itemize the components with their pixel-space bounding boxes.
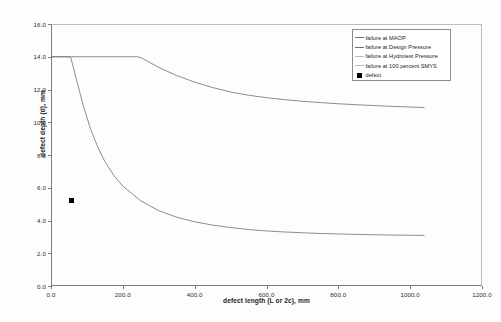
legend-item-label: failure at Hydrotest Pressure	[364, 53, 438, 59]
x-tick-mark	[51, 286, 52, 289]
x-tick-mark	[410, 286, 411, 289]
legend-line-marker-icon	[355, 43, 364, 52]
legend-item-label: defect	[364, 72, 381, 78]
y-tick-mark	[48, 57, 51, 58]
x-tick-mark	[338, 286, 339, 289]
defect-point-marker	[69, 198, 74, 203]
line-icon	[355, 47, 364, 48]
x-tick-mark	[482, 286, 483, 289]
legend-line-marker-icon	[355, 61, 364, 70]
chart-screenshot: 0.02.04.06.08.010.012.014.016.0 0.0200.0…	[0, 0, 501, 322]
y-tick-mark	[48, 24, 51, 25]
legend-item: failure at 100 percent SMYS	[355, 61, 450, 70]
x-tick-mark	[267, 286, 268, 289]
y-tick-mark	[48, 90, 51, 91]
y-tick-label: 0.0	[18, 283, 46, 290]
legend-line-marker-icon	[355, 52, 364, 61]
y-tick-mark	[48, 221, 51, 222]
legend-item-label: failure at MAOP	[364, 35, 406, 41]
y-tick-label: 6.0	[18, 184, 46, 191]
legend-item-label: failure at Design Pressure	[364, 44, 431, 50]
series-line-1	[51, 57, 425, 236]
legend-item: failure at Design Pressure	[355, 42, 450, 51]
x-tick-mark	[195, 286, 196, 289]
line-icon	[355, 37, 364, 38]
legend-item: failure at Hydrotest Pressure	[355, 52, 450, 61]
x-axis-title: defect length (L or 2c), mm	[51, 297, 482, 304]
legend-line-marker-icon	[355, 33, 364, 42]
y-tick-label: 14.0	[18, 53, 46, 60]
y-tick-mark	[48, 253, 51, 254]
y-tick-label: 2.0	[18, 250, 46, 257]
y-axis-title: defect depth (d), mm	[39, 64, 46, 184]
line-icon	[355, 56, 364, 57]
y-tick-mark	[48, 122, 51, 123]
legend-item: defect	[355, 71, 450, 80]
square-icon	[357, 73, 362, 78]
y-tick-label: 4.0	[18, 217, 46, 224]
legend-square-marker-icon	[355, 71, 364, 80]
legend-item-label: failure at 100 percent SMYS	[364, 63, 437, 69]
chart-legend: failure at MAOPfailure at Design Pressur…	[352, 29, 451, 81]
line-icon	[355, 65, 364, 66]
y-tick-label: 16.0	[18, 21, 46, 28]
y-tick-mark	[48, 155, 51, 156]
y-tick-mark	[48, 188, 51, 189]
legend-item: failure at MAOP	[355, 33, 450, 42]
x-tick-mark	[123, 286, 124, 289]
